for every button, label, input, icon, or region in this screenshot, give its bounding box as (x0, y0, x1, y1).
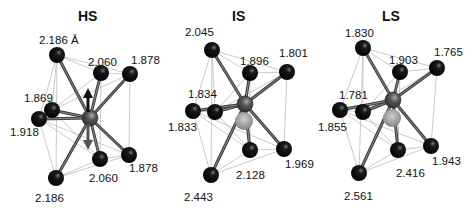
hs-bond-length-bottom-mid: 2.060 (89, 172, 118, 184)
ls-bond-length-bottom-right: 1.943 (432, 155, 461, 167)
is-bond-length-bottom-right: 1.969 (285, 158, 314, 170)
ls-ligand-atom-top-right (429, 60, 445, 76)
hs-metal-atom (82, 110, 98, 126)
is-ligand-atom-top-mid (242, 65, 258, 81)
hs-ligand-atom-mid-inner (44, 102, 60, 118)
ls-bond-length-top-right: 1.765 (434, 46, 463, 58)
ls-ligand-atom-mid-left (332, 102, 348, 118)
spin-state-structures-figure: HS IS LS 2.186 Å2.0601.8781.8691.9182.18… (0, 0, 473, 215)
ls-structure: 1.8301.9031.7651.7811.8552.5612.4161.943 (318, 27, 463, 202)
hs-ligand-atom-bottom-right (121, 147, 137, 163)
hs-ligand-atom-bottom-mid (92, 151, 108, 167)
hs-ligand-atom-top-left (49, 47, 65, 63)
hs-title: HS (78, 8, 97, 24)
is-ligand-atom-top-right (279, 64, 295, 80)
hs-ligand-atom-bottom-left (48, 170, 64, 186)
is-ligand-atom-mid-left (185, 103, 201, 119)
ls-bond-length-top-mid: 1.903 (389, 54, 418, 66)
hs-bond-length-top-right: 1.878 (131, 54, 160, 66)
is-ligand-atom-bottom-mid (242, 142, 258, 158)
is-bond-length-top-left: 2.045 (185, 26, 214, 38)
is-bond-length-top-right: 1.801 (279, 47, 308, 59)
is-lower-sphere (235, 112, 253, 130)
ls-ligand-atom-mid-inner (355, 104, 371, 120)
ls-bond-length-mid-left: 1.855 (318, 121, 347, 133)
is-ligand-atom-mid-inner (207, 104, 223, 120)
is-bond-length-bottom-left: 2.443 (184, 191, 213, 203)
hs-structure: 2.186 Å2.0601.8781.8691.9182.1862.0601.8… (10, 34, 160, 204)
ls-lower-sphere (383, 109, 401, 127)
is-title: IS (232, 8, 245, 24)
is-structure: 2.0451.8961.8011.8341.8332.4432.1281.969 (168, 26, 314, 203)
ls-bond-length-top-left: 1.830 (345, 27, 374, 39)
ls-ligand-atom-bottom-mid (390, 142, 406, 158)
ls-bond-length-bottom-left: 2.561 (344, 190, 373, 202)
ls-title: LS (382, 8, 400, 24)
is-ligand-atom-bottom-right (276, 141, 292, 157)
is-bond-length-top-mid: 1.896 (240, 55, 269, 67)
hs-bond-length-top-mid: 2.060 (88, 56, 117, 68)
hs-ligand-atom-top-right (122, 66, 138, 82)
is-bond-length-mid-inner: 1.834 (188, 88, 217, 100)
hs-bond-length-bottom-right: 1.878 (129, 162, 158, 174)
is-ligand-atom-top-left (204, 42, 220, 58)
ls-ligand-atom-bottom-right (423, 138, 439, 154)
ls-ligand-atom-bottom-left (351, 165, 367, 181)
ls-bond-length-mid-inner: 1.781 (339, 89, 368, 101)
is-ligand-atom-bottom-left (203, 167, 219, 183)
is-metal-atom (237, 96, 253, 112)
is-bond-length-mid-left: 1.833 (168, 121, 197, 133)
ls-metal-atom (385, 92, 401, 108)
ls-ligand-atom-top-mid (392, 64, 408, 80)
hs-ligand-atom-mid-left (31, 111, 47, 127)
hs-bond-length-bottom-left: 2.186 (35, 192, 64, 204)
ls-ligand-atom-top-left (355, 40, 371, 56)
is-bond-length-bottom-mid: 2.128 (236, 169, 265, 181)
hs-bond-length-mid-left: 1.918 (10, 126, 39, 138)
ls-bond-length-bottom-mid: 2.416 (396, 167, 425, 179)
hs-bond-length-mid-inner: 1.869 (24, 92, 53, 104)
hs-bond-length-top-left: 2.186 Å (39, 34, 79, 46)
